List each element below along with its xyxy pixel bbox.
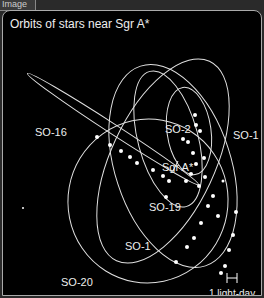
label-so16: SO-16 (35, 126, 67, 138)
orbits-diagram: SO-16 SO-2 SO-1 Sgr A* SO-19 SO-1 SO-20 … (3, 11, 261, 295)
label-sgr-a: Sgr A* (162, 161, 194, 173)
label-so2: SO-2 (165, 123, 191, 135)
label-so20: SO-20 (61, 276, 93, 288)
label-so1-left: SO-1 (125, 240, 151, 252)
label-so1-right: SO-1 (233, 129, 259, 141)
diagram-frame: Orbits of stars near Sgr A* (2, 10, 262, 296)
label-so19: SO-19 (149, 201, 181, 213)
scale-bar (227, 273, 237, 283)
label-scale: 1 light-day (209, 288, 255, 295)
orbit-so20 (55, 106, 241, 295)
